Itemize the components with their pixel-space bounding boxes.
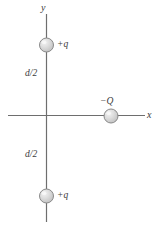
charge-label-bottom: +q: [57, 191, 68, 201]
charge-sphere-negative: [104, 109, 118, 123]
x-axis-label: x: [147, 110, 151, 120]
distance-label-top: d/2: [25, 69, 37, 79]
charge-label-negative: −Q: [100, 97, 113, 107]
physics-diagram-figure: y x +q −Q +q d/2 d/2: [0, 0, 156, 228]
distance-label-bottom: d/2: [25, 150, 37, 160]
y-axis-label: y: [41, 3, 45, 13]
charge-sphere-bottom: [40, 189, 54, 203]
charge-label-top: +q: [57, 40, 68, 50]
charge-sphere-top: [40, 38, 54, 52]
diagram-canvas: [0, 0, 156, 228]
